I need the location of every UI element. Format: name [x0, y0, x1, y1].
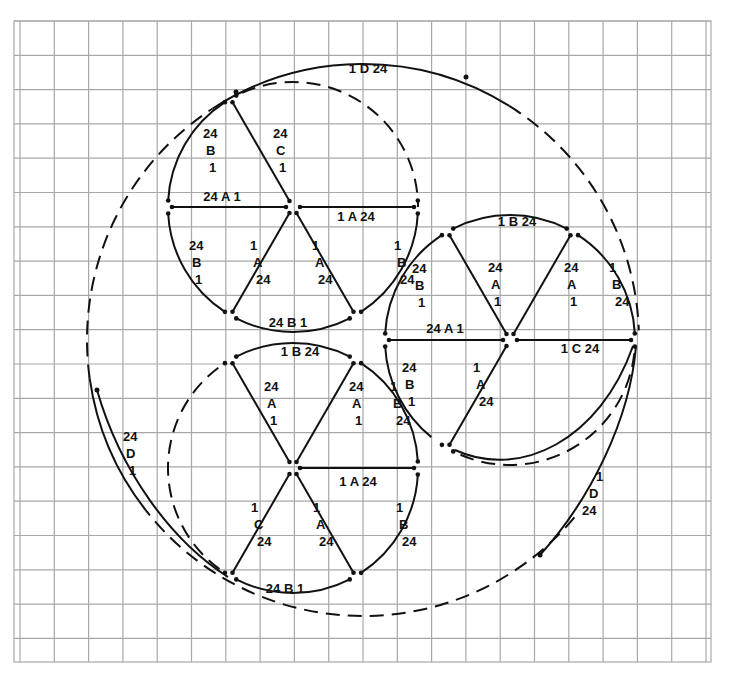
label-text: B	[192, 255, 201, 270]
label-text: 1	[355, 413, 362, 428]
terminal-dot	[347, 316, 352, 321]
label-text: 1 D 24	[349, 61, 388, 76]
label-top-spoke-right-A: 1 A 24	[337, 209, 375, 224]
label-text: 1	[570, 294, 577, 309]
label-text: C	[254, 517, 264, 532]
terminal-dot	[538, 553, 543, 558]
terminal-dot	[451, 449, 456, 454]
terminal-dot	[166, 198, 171, 203]
terminal-dot	[501, 338, 506, 343]
terminal-dot	[511, 332, 516, 337]
label-text: 1	[396, 500, 403, 515]
curve-left-D	[97, 390, 228, 577]
label-text: 24 A 1	[203, 189, 240, 204]
terminal-dot	[412, 466, 417, 471]
terminal-dot	[568, 233, 573, 238]
terminal-dot	[416, 459, 421, 464]
terminal-dot	[287, 460, 292, 465]
label-text: B	[612, 277, 621, 292]
label-text: 1 A 24	[339, 474, 377, 489]
label-bl-spoke-lower-left-C: 1C24	[251, 500, 272, 549]
label-text: B	[415, 278, 424, 293]
label-text: B	[393, 396, 402, 411]
label-text: A	[315, 255, 325, 270]
terminal-dot	[451, 226, 456, 231]
terminal-dot	[440, 443, 445, 448]
label-text: 1	[312, 238, 319, 253]
label-right-arc-top-B: 1 B 24	[498, 214, 537, 229]
terminal-dot	[170, 205, 175, 210]
terminal-dot	[383, 344, 388, 349]
label-text: A	[491, 277, 501, 292]
terminal-dot	[298, 466, 303, 471]
label-text: D	[589, 486, 598, 501]
label-text: A	[567, 277, 577, 292]
label-text: 24 B 1	[266, 581, 304, 596]
terminal-dot	[416, 472, 421, 477]
terminal-dot	[504, 332, 509, 337]
arc-top-lower-right	[361, 214, 418, 312]
terminal-dot	[234, 316, 239, 321]
label-bl-spoke-lower-right-A: 1A24	[313, 500, 334, 549]
terminal-dot	[564, 226, 569, 231]
terminal-dot	[629, 338, 634, 343]
spoke-right-300	[514, 235, 571, 334]
label-text: 24	[412, 261, 427, 276]
label-text: 1	[408, 394, 415, 409]
terminal-dot	[351, 309, 356, 314]
label-text: 1	[390, 379, 397, 394]
terminal-dot	[166, 211, 171, 216]
terminal-dot	[359, 571, 364, 576]
label-right-spoke-upper-left-A: 24A1	[488, 260, 503, 309]
label-text: 1	[394, 238, 401, 253]
label-bl-arc-lower-right-B: 1B24	[396, 500, 417, 549]
label-text: 1	[418, 295, 425, 310]
label-text: 24	[479, 394, 494, 409]
label-text: 24	[273, 126, 288, 141]
terminal-dot	[287, 211, 292, 216]
terminal-dot	[412, 205, 417, 210]
label-outer-top-D: 1 D 24	[349, 61, 388, 76]
label-text: 24	[256, 272, 271, 287]
terminal-dot	[223, 310, 228, 315]
label-text: 1 B 24	[281, 344, 320, 359]
label-text: 24	[257, 534, 272, 549]
label-text: 24	[189, 238, 204, 253]
label-text: 1	[473, 360, 480, 375]
terminal-dot	[234, 90, 239, 95]
label-text: B	[206, 143, 215, 158]
arc-top-upper-right-dashed	[242, 82, 418, 207]
label-text: A	[476, 377, 486, 392]
curve-right-D	[540, 346, 636, 555]
label-right-arc-upper-left-B: 24B1	[412, 261, 427, 310]
terminal-dot	[504, 344, 509, 349]
terminal-dot	[515, 338, 520, 343]
label-text: A	[267, 396, 277, 411]
label-text: 24	[402, 534, 417, 549]
label-text: 1	[250, 238, 257, 253]
terminal-dot	[359, 310, 364, 315]
label-bl-arc-top-B: 1 B 24	[281, 344, 320, 359]
label-text: 24	[488, 260, 503, 275]
terminal-dot	[230, 361, 235, 366]
terminal-dot	[234, 354, 239, 359]
terminal-dot	[447, 442, 452, 447]
terminal-dot	[230, 100, 235, 105]
label-text: B	[397, 255, 406, 270]
arc-bl-left-dashed	[168, 367, 220, 569]
terminal-dot	[416, 211, 421, 216]
terminal-dot	[416, 198, 421, 203]
label-text: 1	[596, 469, 603, 484]
label-text: 24	[318, 272, 333, 287]
spoke-top-60	[297, 213, 354, 312]
label-bl-spoke-upper-right-A: 24A1	[349, 379, 364, 428]
cable-layout-diagram: 1 D 2424D11D2424B124C124 A 11 A 2424B11A…	[0, 0, 731, 682]
terminal-dot	[347, 354, 352, 359]
terminal-dot	[387, 338, 392, 343]
label-top-arc-upper-left-B: 24B1	[203, 126, 218, 175]
label-text: 1	[209, 160, 216, 175]
label-text: 1	[195, 272, 202, 287]
terminal-dot	[298, 205, 303, 210]
terminal-dot	[294, 472, 299, 477]
label-text: A	[253, 255, 263, 270]
